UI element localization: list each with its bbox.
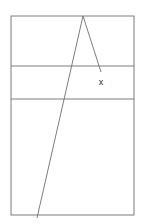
short-diagonal-line — [83, 16, 101, 72]
line-diagram-svg: x — [0, 0, 142, 224]
long-diagonal-line — [37, 16, 83, 218]
outer-rectangle — [11, 16, 134, 215]
label-x: x — [99, 77, 104, 87]
figure-canvas: x — [0, 0, 142, 224]
